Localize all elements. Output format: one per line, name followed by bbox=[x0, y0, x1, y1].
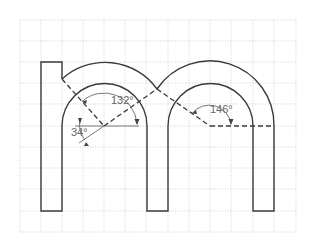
m-construction-diagram: 132° 34° 146° bbox=[0, 0, 311, 245]
dashed-line-to-right-center bbox=[157, 89, 210, 126]
left-stem bbox=[41, 62, 62, 211]
arrow-icon bbox=[229, 119, 234, 125]
angle-label-34: 34° bbox=[71, 126, 88, 138]
arrow-icon bbox=[135, 119, 140, 125]
right-outer-arch bbox=[157, 61, 274, 126]
arrow-icon bbox=[84, 142, 89, 146]
angle-label-146: 146° bbox=[210, 103, 233, 115]
angle-label-132: 132° bbox=[111, 94, 134, 106]
arrow-icon bbox=[78, 118, 82, 124]
left-outer-arch bbox=[62, 62, 157, 89]
